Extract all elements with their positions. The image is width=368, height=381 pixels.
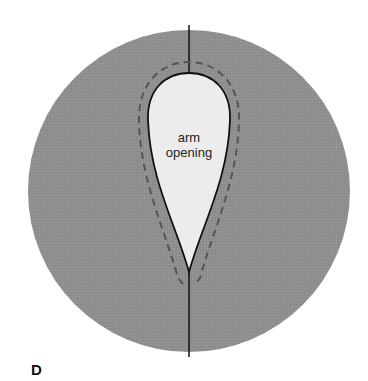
label-line-2: opening (159, 145, 219, 160)
arm-opening-label: arm opening (159, 130, 219, 160)
diagram-canvas (0, 0, 368, 381)
label-line-1: arm (159, 130, 219, 145)
panel-letter: D (31, 361, 42, 378)
